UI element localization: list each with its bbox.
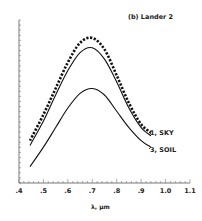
- curve-soil: [30, 88, 151, 166]
- x-tick-label: .6: [64, 187, 71, 195]
- x-tick-label: .9: [138, 187, 145, 195]
- curve-dotted: [30, 38, 151, 141]
- panel-title: (b) Lander 2: [128, 13, 173, 21]
- x-tick-label: .5: [40, 187, 47, 195]
- x-tick-label: .7: [89, 187, 96, 195]
- curves: [30, 38, 151, 167]
- y-axis: [19, 20, 21, 183]
- label-soil: 3, SOIL: [150, 146, 176, 154]
- x-tick-label: 1.1: [184, 187, 196, 195]
- x-tick-label: .4: [16, 187, 23, 195]
- x-tick-label: .8: [113, 187, 120, 195]
- x-tick-label: 1.0: [160, 187, 172, 195]
- curve-sky: [30, 47, 151, 145]
- spectral-chart: (b) Lander 2 λ, μm 1, SKY 3, SOIL .4.5.6…: [0, 0, 202, 221]
- x-axis: [19, 179, 190, 183]
- x-tick-labels: .4.5.6.7.8.91.01.1: [16, 187, 197, 195]
- x-axis-label: λ, μm: [91, 203, 110, 211]
- label-sky: 1, SKY: [150, 129, 174, 137]
